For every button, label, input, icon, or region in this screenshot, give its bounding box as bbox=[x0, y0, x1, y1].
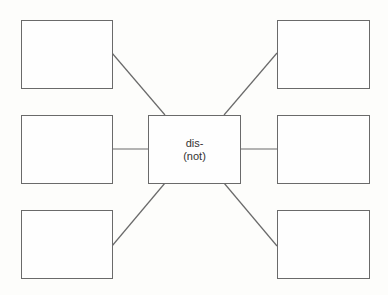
satellite-box-bottom-right bbox=[277, 210, 370, 279]
connector-bottom-right bbox=[224, 183, 277, 246]
satellite-box-bottom-left bbox=[21, 210, 113, 279]
center-box: dis- (not) bbox=[148, 115, 241, 184]
satellite-box-top-left bbox=[21, 20, 113, 89]
satellite-box-middle-right bbox=[277, 115, 370, 184]
satellite-box-middle-left bbox=[21, 115, 113, 184]
connector-top-right bbox=[224, 53, 277, 115]
center-prefix: dis- bbox=[186, 137, 204, 150]
center-meaning: (not) bbox=[183, 150, 206, 163]
connector-top-left bbox=[112, 53, 165, 115]
connector-bottom-left bbox=[112, 183, 165, 246]
satellite-box-top-right bbox=[277, 20, 370, 89]
